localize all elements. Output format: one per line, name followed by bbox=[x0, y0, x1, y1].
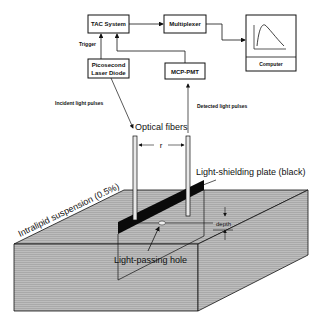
detected-pulses-label: Detected light pulses bbox=[197, 103, 248, 109]
optical-fiber-detector bbox=[186, 136, 190, 216]
tac-system-label: TAC System bbox=[91, 21, 126, 27]
multiplexer-label: Multiplexer bbox=[169, 21, 201, 27]
laser-diode-label-line1: Picosecond bbox=[92, 62, 126, 68]
optical-fiber-source bbox=[133, 136, 137, 220]
incident-pulse-arrow bbox=[111, 78, 133, 128]
depth-label: depth bbox=[216, 221, 231, 227]
optical-fibers-label: Optical fibers bbox=[135, 122, 188, 132]
multiplexer-to-computer-arrow bbox=[206, 24, 245, 40]
tac-system-block: TAC System bbox=[88, 15, 129, 33]
laser-diode-label-line2: Laser Diode bbox=[91, 70, 126, 76]
distance-r-label: r bbox=[160, 141, 163, 150]
laser-diode-block: Picosecond Laser Diode bbox=[88, 59, 129, 78]
shielding-plate-label: Light-shielding plate (black) bbox=[196, 167, 306, 177]
plate-leader-line bbox=[203, 180, 216, 185]
incident-pulses-label: Incident light pulses bbox=[55, 100, 104, 106]
multiplexer-block: Multiplexer bbox=[164, 15, 206, 33]
trigger-label: Trigger bbox=[79, 41, 96, 47]
light-passing-hole bbox=[159, 221, 166, 225]
hole-label: Light-passing hole bbox=[114, 255, 187, 265]
computer-label: Computer bbox=[259, 61, 283, 67]
computer-block: Computer bbox=[246, 15, 296, 71]
mcp-pmt-label: MCP-PMT bbox=[171, 69, 199, 75]
experimental-setup-diagram: TAC System Multiplexer Picosecond Laser … bbox=[0, 0, 318, 322]
fiber-distance-dimension: r bbox=[139, 141, 184, 150]
mcp-pmt-block: MCP-PMT bbox=[165, 63, 205, 79]
